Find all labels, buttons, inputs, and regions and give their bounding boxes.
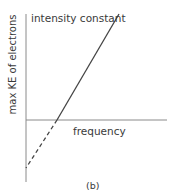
extrapolation-dashed-line bbox=[26, 120, 57, 168]
x-axis-label: frequency bbox=[73, 125, 126, 137]
diagram-canvas bbox=[0, 0, 177, 195]
kinetic-energy-line bbox=[57, 14, 119, 120]
y-axis-label: max KE of electrons bbox=[7, 15, 18, 115]
annotation-label: intensity constant bbox=[31, 12, 126, 24]
figure-caption: (b) bbox=[86, 180, 99, 191]
